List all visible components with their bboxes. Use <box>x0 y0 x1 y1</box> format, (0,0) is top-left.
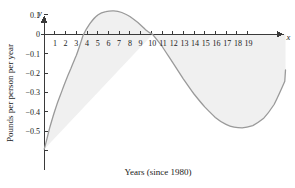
x-tick-label: 2 <box>64 39 68 48</box>
y-tick-labels: 0.1 0 −0.1 −0.2 −0.3 −0.4 −0.5 <box>25 11 40 136</box>
chart-plot-area: 1 2 3 4 5 6 7 8 9 10 11 12 13 14 15 16 1… <box>0 0 295 188</box>
chart-figure: 1 2 3 4 5 6 7 8 9 10 11 12 13 14 15 16 1… <box>0 0 295 188</box>
y-tick-label: 0 <box>36 30 40 39</box>
x-tick-label: 18 <box>234 39 242 48</box>
x-tick-label: 14 <box>191 39 199 48</box>
x-tick-label: 6 <box>106 39 110 48</box>
y-axis-arrow <box>42 17 47 23</box>
y-tick-label: −0.3 <box>25 88 40 97</box>
x-tick-label: 15 <box>202 39 210 48</box>
x-tick-label: 19 <box>245 39 253 48</box>
x-tick-label: 5 <box>96 39 100 48</box>
x-axis-title: Years (since 1980) <box>124 167 191 177</box>
x-tick-label: 3 <box>74 39 78 48</box>
x-tick-label: 9 <box>139 39 143 48</box>
x-tick-label: 17 <box>223 39 231 48</box>
y-tick-label: −0.1 <box>25 50 40 59</box>
x-tick-label: 16 <box>213 39 221 48</box>
area-fill-region-2 <box>153 34 286 128</box>
x-tick-label: 8 <box>128 39 132 48</box>
x-tick-label: 11 <box>159 39 167 48</box>
y-tick-label: −0.5 <box>25 127 40 136</box>
x-tick-label: 1 <box>53 39 57 48</box>
y-tick-label: −0.2 <box>25 69 40 78</box>
area-fill-region <box>44 11 152 149</box>
x-tick-label: 10 <box>148 39 156 48</box>
x-tick-label: 7 <box>117 39 121 48</box>
x-axis-variable-name: x <box>286 32 291 42</box>
x-tick-label: 13 <box>180 39 188 48</box>
y-tick-label: −0.4 <box>25 108 40 117</box>
y-axis-ticks <box>44 15 48 151</box>
x-tick-label: 4 <box>85 39 89 48</box>
y-axis-title: Pounds per person per year <box>5 44 15 142</box>
x-tick-label: 12 <box>170 39 178 48</box>
y-axis-variable-name: y <box>37 8 42 18</box>
